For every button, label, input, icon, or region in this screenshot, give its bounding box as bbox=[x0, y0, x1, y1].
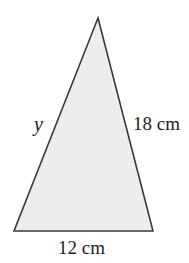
right-side-label: 18 cm bbox=[133, 114, 180, 133]
left-side-label: y bbox=[34, 114, 43, 134]
figure-canvas: y 18 cm 12 cm bbox=[0, 0, 189, 263]
base-side-label: 12 cm bbox=[58, 238, 105, 257]
